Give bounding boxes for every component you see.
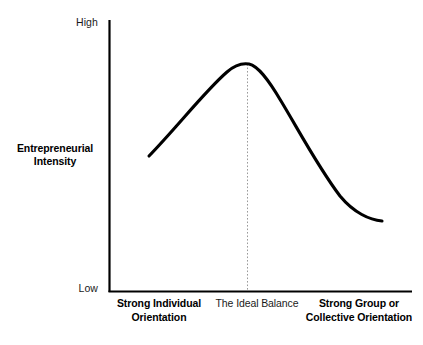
- x-axis-label-strong-individual-orientation: Strong Individual Orientation: [105, 297, 213, 324]
- x-axis-label-line-1: Strong Group or: [297, 297, 421, 311]
- y-axis-low-label: Low: [78, 282, 98, 294]
- x-axis-label-strong-group-collective-orientation: Strong Group or Collective Orientation: [297, 297, 421, 324]
- x-axis-label-ideal-balance: The Ideal Balance: [205, 297, 309, 311]
- x-axis-label-line-1: The Ideal Balance: [205, 297, 309, 311]
- entrepreneurial-intensity-chart: High Low Entrepreneurial Intensity Stron…: [0, 0, 423, 345]
- intensity-curve: [149, 64, 382, 221]
- x-axis-label-line-2: Orientation: [105, 311, 213, 325]
- x-axis-label-line-2: Collective Orientation: [297, 311, 421, 325]
- y-axis-high-label: High: [76, 16, 98, 28]
- y-axis-title: Entrepreneurial Intensity: [8, 142, 102, 168]
- x-axis-label-line-1: Strong Individual: [105, 297, 213, 311]
- chart-plot-area: [0, 0, 423, 345]
